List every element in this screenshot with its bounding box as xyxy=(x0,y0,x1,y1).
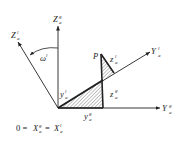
svg-text:l: l xyxy=(46,53,48,58)
svg-text:a: a xyxy=(115,95,118,100)
svg-text:l: l xyxy=(115,54,117,59)
label-angle: ω l xyxy=(40,53,48,63)
caption-origin: 0 = X g a = X l a xyxy=(16,123,63,134)
svg-text:y: y xyxy=(83,111,88,121)
svg-text:a: a xyxy=(39,129,42,134)
svg-text:a: a xyxy=(115,60,118,65)
svg-text:Z: Z xyxy=(11,30,16,40)
svg-text:g: g xyxy=(59,14,62,19)
svg-text:a: a xyxy=(17,36,20,41)
svg-text:=: = xyxy=(45,123,50,133)
svg-text:l: l xyxy=(65,89,67,94)
svg-text:a: a xyxy=(65,95,68,100)
z-local-axis xyxy=(18,42,58,108)
svg-text:g: g xyxy=(89,111,92,116)
label-point-p: P xyxy=(92,51,98,61)
label-z-local: Z l a xyxy=(11,30,20,41)
label-y-local: Y l a xyxy=(151,46,161,58)
svg-text:Y: Y xyxy=(151,46,157,56)
label-y-local-component: y l a xyxy=(59,89,68,100)
svg-text:l: l xyxy=(158,46,160,51)
svg-text:z: z xyxy=(109,89,114,99)
svg-text:a: a xyxy=(169,110,172,115)
svg-text:a: a xyxy=(158,53,161,58)
label-z-global: Z g a xyxy=(53,14,62,25)
svg-text:a: a xyxy=(89,117,92,122)
label-z-global-component: z g a xyxy=(109,88,118,100)
svg-text:Z: Z xyxy=(53,14,58,24)
label-y-global-component: y g a xyxy=(83,111,92,122)
svg-text:Y: Y xyxy=(162,103,168,113)
svg-text:l: l xyxy=(60,123,62,128)
svg-text:P: P xyxy=(92,51,98,61)
svg-text:0 =: 0 = xyxy=(16,123,27,133)
label-y-global: Y g a xyxy=(162,103,172,115)
svg-text:X: X xyxy=(53,123,60,133)
svg-text:a: a xyxy=(60,129,63,134)
svg-text:a: a xyxy=(59,20,62,25)
svg-text:X: X xyxy=(32,123,39,133)
svg-text:g: g xyxy=(115,88,118,93)
svg-text:y: y xyxy=(59,89,64,99)
svg-text:g: g xyxy=(39,123,42,128)
svg-text:l: l xyxy=(17,30,19,35)
svg-text:g: g xyxy=(169,103,172,108)
label-z-local-component: z l a xyxy=(109,54,118,65)
coordinate-diagram: Z g a Z l a ω l P Y l a z l a y l a z g … xyxy=(0,0,179,157)
svg-text:z: z xyxy=(109,54,114,64)
